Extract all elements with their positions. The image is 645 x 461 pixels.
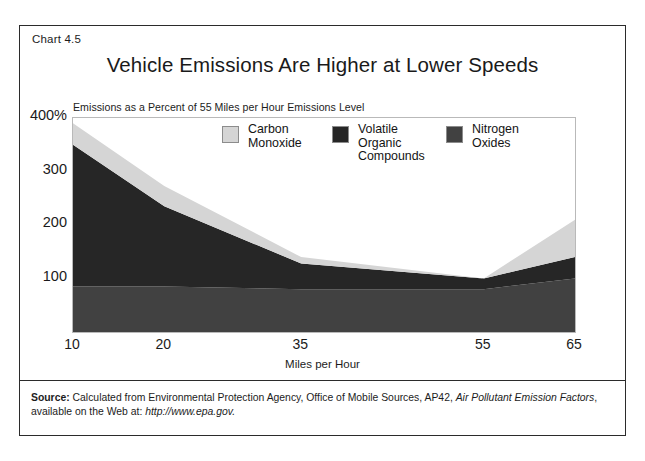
- source-label: Source:: [31, 392, 70, 403]
- source-text-1: Calculated from Environmental Protection…: [70, 392, 456, 403]
- x-tick-label: 55: [475, 336, 491, 352]
- y-tick-label: 300: [43, 161, 67, 177]
- legend-swatch-icon: [332, 126, 349, 143]
- chart-subtitle: Emissions as a Percent of 55 Miles per H…: [73, 101, 364, 113]
- y-tick-label: 200: [43, 214, 67, 230]
- source-note: Source: Calculated from Environmental Pr…: [31, 391, 606, 419]
- legend-label: Carbon Monoxide: [248, 123, 302, 150]
- chart-page: Chart 4.5 Vehicle Emissions Are Higher a…: [0, 0, 645, 461]
- legend-swatch-icon: [446, 126, 463, 143]
- legend-label: Volatile Organic Compounds: [358, 123, 425, 164]
- x-tick-label: 65: [566, 336, 582, 352]
- x-tick-label: 35: [292, 336, 308, 352]
- source-divider: [19, 380, 626, 381]
- legend-swatch-icon: [222, 126, 239, 143]
- x-tick-label: 20: [155, 336, 171, 352]
- x-tick-label: 10: [64, 336, 80, 352]
- y-tick-label: 100: [43, 268, 67, 284]
- legend-label: Nitrogen Oxides: [472, 123, 519, 150]
- y-axis-labels: 400%300200100: [0, 0, 72, 340]
- x-axis-labels: 1020355565: [0, 336, 645, 360]
- chart-legend: Carbon MonoxideVolatile Organic Compound…: [222, 123, 522, 203]
- y-tick-label: 400%: [30, 107, 67, 123]
- chart-title: Vehicle Emissions Are Higher at Lower Sp…: [0, 53, 645, 77]
- source-italic-2: http://www.epa.gov.: [145, 406, 235, 417]
- source-italic-1: Air Pollutant Emission Factors: [456, 392, 595, 403]
- x-axis-title: Miles per Hour: [0, 358, 645, 370]
